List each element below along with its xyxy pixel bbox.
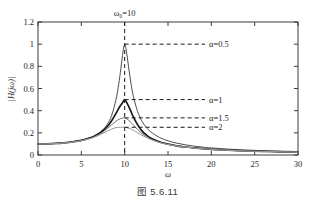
chart-plot-area: 051015202530 00.20.40.60.811.2 α=0.5α=1α… xyxy=(0,0,315,182)
plot-frame xyxy=(38,22,298,155)
y-tick-label: 0 xyxy=(30,150,34,160)
annotation---2: α=2 xyxy=(209,122,223,132)
x-tick-label: 5 xyxy=(79,159,83,169)
y-tick-label: 1 xyxy=(30,39,34,49)
x-tick-label: 15 xyxy=(164,159,173,169)
figure-caption: 图 5.6.11 xyxy=(0,184,315,198)
figure-container: 051015202530 00.20.40.60.811.2 α=0.5α=1α… xyxy=(0,0,315,211)
x-tick-label: 0 xyxy=(36,159,40,169)
y-tick-label: 0.4 xyxy=(23,106,34,116)
y-tick-label: 0.8 xyxy=(23,61,34,71)
annotation---1: α=1 xyxy=(209,95,223,105)
x-axis-title: ω xyxy=(165,169,171,179)
x-tick-label: 25 xyxy=(250,159,259,169)
y-tick-label: 0.2 xyxy=(23,128,34,138)
y-tick-label: 0.6 xyxy=(23,84,34,94)
y-tick-label: 1.2 xyxy=(23,17,34,27)
x-tick-label: 10 xyxy=(120,159,129,169)
resonance-line-chart: 051015202530 00.20.40.60.811.2 α=0.5α=1α… xyxy=(0,0,315,182)
annotation---0-5: α=0.5 xyxy=(209,39,229,49)
resonance-frequency-label: ω₀=10 xyxy=(114,8,136,18)
x-tick-label: 30 xyxy=(294,159,303,169)
y-axis-title: |H(jω)| xyxy=(6,77,16,102)
x-axis-tick-labels: 051015202530 xyxy=(36,159,302,169)
y-axis-tick-labels: 00.20.40.60.811.2 xyxy=(23,17,34,160)
x-tick-label: 20 xyxy=(207,159,216,169)
